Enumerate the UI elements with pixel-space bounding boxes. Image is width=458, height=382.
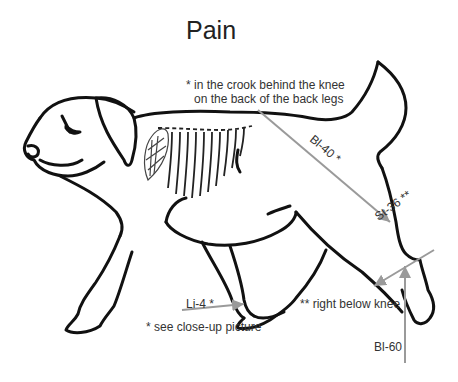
note-below-knee: ** right below knee	[300, 297, 400, 311]
note-crook-line2: on the back of the back legs	[194, 92, 343, 106]
shoulder-blade	[145, 129, 169, 180]
diagram-canvas: Pain	[0, 0, 458, 382]
point-label-bl60: Bl-60	[374, 340, 402, 354]
arrow-bl40	[258, 110, 390, 222]
note-crook-line1: * in the crook behind the knee	[186, 78, 345, 92]
point-label-li4: Li-4 *	[186, 297, 214, 311]
note-closeup: * see close-up picture	[146, 320, 261, 334]
